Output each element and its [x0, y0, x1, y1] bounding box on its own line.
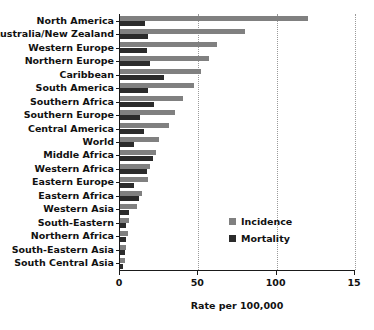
gridline — [355, 14, 356, 270]
bar-incidence — [120, 218, 129, 223]
chart-row: Caribbean — [120, 68, 355, 81]
bar-mortality — [120, 102, 154, 107]
y-axis-category-label: Southern Africa — [30, 97, 114, 107]
chart-row: Southern Africa — [120, 95, 355, 108]
bar-incidence — [120, 191, 142, 196]
bar-mortality — [120, 21, 145, 26]
bar-incidence — [120, 258, 125, 263]
y-axis-category-label: North America — [37, 16, 114, 26]
chart-row: Western Europe — [120, 41, 355, 54]
bar-mortality — [120, 115, 140, 120]
y-axis-category-label: World — [83, 137, 114, 147]
legend-swatch-mortality — [229, 235, 236, 242]
y-axis-category-label: Northern Europe — [25, 56, 114, 66]
bar-incidence — [120, 42, 217, 47]
x-axis-tick-label: 100 — [266, 277, 286, 288]
bar-mortality — [120, 156, 153, 161]
x-axis-title: Rate per 100,000 — [119, 300, 355, 311]
x-axis-tick-label: 0 — [116, 277, 123, 288]
y-axis-category-label: Eastern Africa — [38, 191, 114, 201]
bar-incidence — [120, 16, 308, 21]
chart-row: Middle Africa — [120, 149, 355, 162]
y-axis-category-label: Western Europe — [28, 43, 114, 53]
x-axis-tick-label: 15 — [347, 277, 360, 288]
chart-row: Central America — [120, 122, 355, 135]
bar-mortality — [120, 129, 144, 134]
bar-incidence — [120, 110, 175, 115]
bar-incidence — [120, 150, 156, 155]
bar-mortality — [120, 75, 164, 80]
chart-row: Eastern Africa — [120, 189, 355, 202]
bar-incidence — [120, 177, 148, 182]
y-axis-category-label: Southern Europe — [24, 110, 114, 120]
bar-incidence — [120, 69, 201, 74]
bar-mortality — [120, 223, 126, 228]
bar-mortality — [120, 196, 139, 201]
bar-chart: North AmericaAustralia/New ZealandWester… — [0, 0, 374, 330]
bar-mortality — [120, 237, 126, 242]
y-axis-category-label: Central America — [28, 124, 114, 134]
legend-item-incidence: Incidence — [229, 216, 292, 227]
chart-row: Northern Europe — [120, 54, 355, 67]
y-axis-category-label: South America — [36, 83, 114, 93]
legend-swatch-incidence — [229, 218, 236, 225]
y-axis-category-label: Caribbean — [59, 70, 114, 80]
y-axis-category-label: Western Asia — [43, 204, 114, 214]
bar-incidence — [120, 123, 169, 128]
chart-row: Eastern Europe — [120, 176, 355, 189]
chart-row: Australia/New Zealand — [120, 27, 355, 40]
legend-label-incidence: Incidence — [241, 216, 292, 227]
bar-mortality — [120, 250, 125, 255]
bar-incidence — [120, 83, 194, 88]
chart-legend: Incidence Mortality — [229, 216, 292, 250]
bar-incidence — [120, 231, 128, 236]
bar-incidence — [120, 204, 137, 209]
chart-row: North America — [120, 14, 355, 27]
x-axis-tick — [276, 270, 277, 275]
bar-incidence — [120, 164, 150, 169]
x-axis-tick — [197, 270, 198, 275]
legend-label-mortality: Mortality — [241, 233, 290, 244]
y-axis-category-label: Australia/New Zealand — [0, 29, 114, 39]
x-axis-tick — [354, 270, 355, 275]
bar-mortality — [120, 34, 148, 39]
chart-row: South Central Asia — [120, 257, 355, 270]
chart-row: Western Asia — [120, 203, 355, 216]
bar-mortality — [120, 183, 134, 188]
x-axis-line — [119, 270, 355, 271]
y-axis-category-label: Western Africa — [35, 164, 114, 174]
bar-incidence — [120, 137, 159, 142]
y-axis-category-label: Northern Africa — [31, 231, 114, 241]
x-axis-tick — [119, 270, 120, 275]
y-axis-category-label: South-Eastern Asia — [12, 245, 114, 255]
bar-mortality — [120, 61, 150, 66]
y-axis-category-label: Eastern Europe — [32, 177, 114, 187]
bar-mortality — [120, 88, 148, 93]
bar-mortality — [120, 48, 147, 53]
bar-incidence — [120, 29, 245, 34]
chart-row: Western Africa — [120, 162, 355, 175]
bar-mortality — [120, 169, 147, 174]
bar-mortality — [120, 210, 129, 215]
chart-row: World — [120, 135, 355, 148]
chart-row: South America — [120, 81, 355, 94]
bar-mortality — [120, 142, 134, 147]
legend-item-mortality: Mortality — [229, 233, 292, 244]
chart-row: Southern Europe — [120, 108, 355, 121]
x-axis-tick-label: 50 — [191, 277, 204, 288]
y-axis-category-label: South-Eastern — [38, 218, 114, 228]
y-axis-category-label: South Central Asia — [14, 258, 114, 268]
bar-mortality — [120, 264, 123, 269]
bar-incidence — [120, 245, 126, 250]
bar-incidence — [120, 56, 209, 61]
y-axis-category-label: Middle Africa — [43, 150, 114, 160]
bar-incidence — [120, 96, 183, 101]
